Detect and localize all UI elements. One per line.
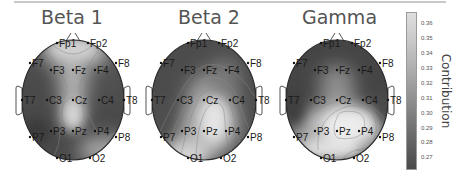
svg-text:Fz: Fz	[75, 65, 86, 76]
svg-text:P3: P3	[53, 126, 66, 137]
svg-text:Cz: Cz	[75, 95, 87, 106]
svg-text:T8: T8	[390, 95, 402, 106]
svg-text:Fp2: Fp2	[221, 38, 239, 49]
svg-text:P3: P3	[317, 126, 330, 137]
svg-text:F3: F3	[184, 65, 196, 76]
svg-text:P4: P4	[228, 126, 241, 137]
svg-text:T7: T7	[24, 95, 36, 106]
svg-text:C4: C4	[365, 95, 378, 106]
svg-text:Cz: Cz	[339, 95, 351, 106]
svg-text:P8: P8	[118, 132, 131, 143]
colorbar-tick: 0.32	[421, 80, 433, 86]
svg-text:F7: F7	[163, 58, 175, 69]
colorbar-tick: 0.35	[421, 35, 433, 41]
svg-text:Fp1: Fp1	[323, 38, 341, 49]
svg-text:F3: F3	[317, 65, 329, 76]
svg-text:P7: P7	[163, 132, 176, 143]
colorbar-tick: 0.33	[421, 65, 433, 71]
colorbar-tick: 0.34	[421, 50, 433, 56]
colorbar-tick: 0.31	[421, 95, 433, 101]
colorbar-label: Contribution	[439, 54, 453, 129]
svg-text:C4: C4	[232, 95, 245, 106]
svg-text:F4: F4	[361, 65, 373, 76]
colorbar	[406, 12, 417, 170]
svg-text:Pz: Pz	[75, 126, 87, 137]
svg-text:Fz: Fz	[339, 65, 350, 76]
svg-text:O2: O2	[356, 153, 370, 164]
svg-text:F8: F8	[382, 58, 394, 69]
colorbar-tick: 0.28	[421, 139, 433, 145]
svg-text:P4: P4	[97, 126, 110, 137]
svg-text:T7: T7	[154, 95, 166, 106]
svg-text:F7: F7	[32, 58, 44, 69]
svg-text:T8: T8	[126, 95, 138, 106]
svg-text:P7: P7	[296, 132, 309, 143]
colorbar-tick: 0.36	[421, 20, 433, 26]
svg-text:C3: C3	[313, 95, 326, 106]
svg-text:P7: P7	[32, 132, 45, 143]
topomaps: Fp1 Fp2 F7 F3 Fz F4 F8 T7 C3 Cz C4 T8 P7…	[0, 0, 458, 179]
svg-text:T8: T8	[258, 95, 270, 106]
svg-text:C4: C4	[101, 95, 114, 106]
svg-text:P4: P4	[361, 126, 374, 137]
svg-text:T7: T7	[288, 95, 300, 106]
svg-text:O2: O2	[92, 153, 106, 164]
svg-text:F3: F3	[53, 65, 65, 76]
svg-text:F4: F4	[228, 65, 240, 76]
svg-text:F7: F7	[296, 58, 308, 69]
svg-text:Fp1: Fp1	[190, 38, 208, 49]
svg-text:C3: C3	[49, 95, 62, 106]
svg-text:O1: O1	[323, 153, 337, 164]
svg-text:F4: F4	[97, 65, 109, 76]
svg-text:F8: F8	[250, 58, 262, 69]
colorbar-tick: 0.29	[421, 125, 433, 131]
svg-text:P8: P8	[382, 132, 395, 143]
svg-text:O1: O1	[190, 153, 204, 164]
svg-text:F8: F8	[118, 58, 130, 69]
svg-text:O1: O1	[59, 153, 73, 164]
svg-text:C3: C3	[180, 95, 193, 106]
svg-text:Fp1: Fp1	[59, 38, 77, 49]
svg-text:Fz: Fz	[206, 65, 217, 76]
svg-text:P8: P8	[250, 132, 263, 143]
colorbar-tick: 0.30	[421, 110, 433, 116]
svg-text:Fp2: Fp2	[90, 38, 108, 49]
svg-text:P3: P3	[184, 126, 197, 137]
colorbar-tick: 0.27	[421, 154, 433, 160]
svg-text:Pz: Pz	[206, 126, 218, 137]
svg-text:Fp2: Fp2	[354, 38, 372, 49]
svg-text:O2: O2	[223, 153, 237, 164]
svg-text:Cz: Cz	[206, 95, 218, 106]
svg-text:Pz: Pz	[339, 126, 351, 137]
